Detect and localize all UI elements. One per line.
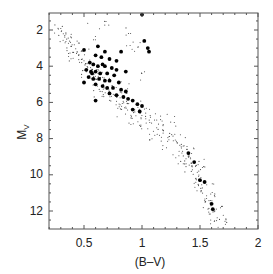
large-data-point [82,81,86,85]
small-data-point [191,153,192,154]
small-data-point [169,136,170,137]
small-data-point [201,184,202,185]
small-data-point [90,67,91,68]
small-data-point [156,127,157,128]
small-data-point [185,166,186,167]
small-data-point [192,169,193,170]
small-data-point [128,123,129,124]
small-data-point [153,131,154,132]
small-data-point [95,76,96,77]
small-data-point [69,41,70,42]
small-data-point [137,107,138,108]
small-data-point [70,42,71,43]
small-data-point [179,151,180,152]
small-data-point [120,92,121,93]
small-data-point [184,160,185,161]
small-data-point [183,155,184,156]
small-data-point [54,24,55,25]
small-data-point [71,37,72,38]
small-data-point [174,122,175,123]
small-data-point [178,155,179,156]
small-data-point [85,63,86,64]
small-data-point [127,88,128,89]
x-axis-label: (B–V) [135,255,166,269]
small-data-point [179,145,180,146]
small-data-point [120,104,121,105]
small-data-point [66,50,67,51]
small-data-point [163,124,164,125]
small-data-point [158,129,159,130]
small-data-point [140,79,141,80]
small-data-point [140,117,141,118]
small-data-point [108,25,109,26]
small-data-point [103,89,104,90]
small-data-point [189,165,190,166]
large-data-point [105,72,109,76]
small-data-point [204,200,205,201]
large-data-point [115,59,119,63]
small-data-point [102,96,103,97]
small-data-point [212,183,213,184]
small-data-point [185,137,186,138]
small-data-point [167,137,168,138]
small-data-point [102,91,103,92]
y-axis-label-sub: V [22,124,31,130]
small-data-point [77,51,78,52]
small-data-point [125,27,126,28]
small-data-point [63,40,64,41]
small-data-point [121,81,122,82]
large-data-point [211,207,215,211]
small-data-point [93,90,94,91]
small-data-point [219,219,220,220]
small-data-point [69,52,70,53]
large-data-point [142,39,146,43]
small-data-point [84,64,85,65]
small-data-point [134,51,135,52]
small-data-point [95,36,96,37]
small-data-point [70,58,71,59]
large-data-point [192,160,196,164]
small-data-point [137,121,138,122]
large-data-point [91,63,95,67]
y-tick-label: 6 [36,95,43,109]
x-tick-label: 1 [139,236,146,250]
small-data-point [150,117,151,118]
y-tick-label: 10 [30,167,44,181]
large-data-point [111,86,115,90]
small-data-point [121,106,122,107]
small-data-point [68,56,69,57]
small-data-point [140,42,141,43]
small-data-point [160,116,161,117]
small-data-point [96,79,97,80]
large-data-point [146,46,150,50]
y-tick-label: 2 [36,23,43,37]
small-data-point [98,76,99,77]
small-data-point [93,39,94,40]
small-data-point [123,101,124,102]
large-data-point [131,99,135,103]
large-data-point [119,88,123,92]
small-data-point [156,119,157,120]
small-data-point [218,227,219,228]
small-data-point [71,46,72,47]
small-data-point [200,169,201,170]
small-data-point [195,178,196,179]
small-data-point [119,103,120,104]
small-data-point [77,41,78,42]
small-data-point [88,49,89,50]
small-data-point [183,163,184,164]
small-data-point [78,59,79,60]
small-data-point [184,163,185,164]
small-data-point [167,141,168,142]
small-data-point [133,123,134,124]
small-data-point [73,52,74,53]
small-data-point [188,157,189,158]
small-data-point [121,109,122,110]
small-data-point [68,43,69,44]
small-data-point [54,32,55,33]
small-data-point [126,45,127,46]
y-tick-labels: 2 4 6 8 10 12 [30,23,44,218]
small-data-point [220,207,221,208]
small-data-point [149,120,150,121]
small-data-point [204,159,205,160]
